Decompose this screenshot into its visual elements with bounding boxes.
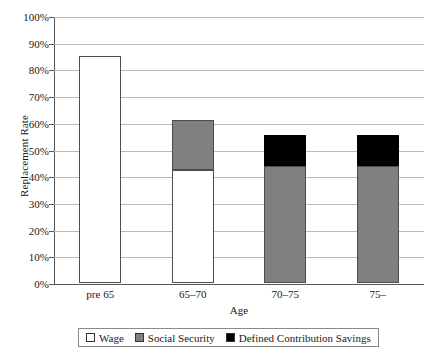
y-tick-mark — [49, 257, 54, 258]
legend-label: Social Security — [148, 332, 215, 344]
y-tick-mark — [49, 204, 54, 205]
legend-swatch-icon — [86, 333, 95, 342]
y-tick-mark — [49, 231, 54, 232]
bar-group: pre 65 — [79, 16, 121, 283]
x-tick-label: 70–75 — [272, 288, 300, 300]
legend-item[interactable]: Wage — [86, 332, 124, 344]
y-tick-mark — [49, 124, 54, 125]
bar-segment-defined-contribution-savings[interactable] — [264, 135, 306, 166]
y-tick-label: 40% — [29, 171, 49, 183]
bar-segment-social-security[interactable] — [172, 120, 214, 169]
y-tick-mark — [49, 284, 54, 285]
chart-legend: WageSocial SecurityDefined Contribution … — [78, 328, 379, 347]
y-tick-label: 90% — [29, 38, 49, 50]
bar-segment-wage[interactable] — [172, 170, 214, 283]
legend-item[interactable]: Social Security — [135, 332, 215, 344]
x-tick-label: 75– — [370, 288, 387, 300]
y-tick-label: 10% — [29, 251, 49, 263]
legend-swatch-icon — [135, 333, 144, 342]
legend-label: Wage — [99, 332, 124, 344]
replacement-rate-bar-chart: Replacement Rate 100%90%80%70%60%50%40%3… — [0, 0, 437, 354]
y-tick-label: 60% — [29, 118, 49, 130]
bar-segment-social-security[interactable] — [264, 166, 306, 283]
bar-group: 75– — [357, 16, 399, 283]
y-tick-label: 30% — [29, 198, 49, 210]
y-tick-mark — [49, 151, 54, 152]
legend-label: Defined Contribution Savings — [239, 332, 371, 344]
y-tick-mark — [49, 97, 54, 98]
y-tick-mark — [49, 70, 54, 71]
y-tick-label: 0% — [34, 278, 49, 290]
x-tick-label: 65–70 — [179, 288, 207, 300]
legend-swatch-icon — [226, 333, 235, 342]
y-tick-label: 50% — [29, 145, 49, 157]
y-tick-mark — [49, 44, 54, 45]
bar-group: 65–70 — [172, 16, 214, 283]
x-axis-line — [54, 284, 424, 285]
plot-area: 100%90%80%70%60%50%40%30%20%10%0% pre 65… — [54, 17, 424, 284]
y-tick-label: 70% — [29, 91, 49, 103]
bar-segment-wage[interactable] — [79, 56, 121, 283]
y-tick-label: 20% — [29, 225, 49, 237]
y-tick-label: 80% — [29, 64, 49, 76]
legend-item[interactable]: Defined Contribution Savings — [226, 332, 371, 344]
x-axis-title: Age — [54, 304, 424, 316]
x-tick-label: pre 65 — [86, 288, 114, 300]
bar-group: 70–75 — [264, 16, 306, 283]
y-tick-mark — [49, 17, 54, 18]
bar-segment-defined-contribution-savings[interactable] — [357, 135, 399, 166]
y-tick-mark — [49, 177, 54, 178]
bar-segment-social-security[interactable] — [357, 166, 399, 283]
y-tick-label: 100% — [23, 11, 49, 23]
